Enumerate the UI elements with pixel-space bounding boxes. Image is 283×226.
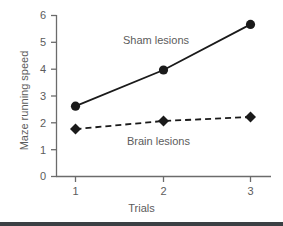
- y-tick-label-0: 0: [30, 171, 46, 182]
- x-axis-title: Trials: [0, 203, 283, 214]
- series-label-sham-lesions: Sham lesions: [123, 35, 189, 46]
- y-tick-label-4: 4: [30, 64, 46, 75]
- data-point-brain-trial-3: [245, 112, 256, 123]
- series-label-brain-lesions: Brain lesions: [127, 136, 190, 147]
- data-point-sham-trial-2: [159, 65, 168, 74]
- y-tick-label-5: 5: [30, 37, 46, 48]
- y-axis-title: Maze running speed: [19, 21, 30, 181]
- y-tick-label-1: 1: [30, 145, 46, 156]
- y-tick-label-3: 3: [30, 91, 46, 102]
- y-tick-label-6: 6: [30, 10, 46, 21]
- x-tick-label-1: 1: [68, 186, 84, 197]
- chart-figure: 6 5 4 3 2 1 0 1 2 3 Maze running speed T…: [0, 0, 283, 222]
- series-markers-brain-lesions: [70, 112, 256, 135]
- x-tick-label-2: 2: [156, 186, 172, 197]
- data-point-brain-trial-2: [158, 116, 169, 127]
- data-point-sham-trial-1: [71, 102, 80, 111]
- bottom-edge-bar: [0, 222, 283, 226]
- x-axis-ticks: [76, 177, 251, 183]
- x-tick-label-3: 3: [243, 186, 259, 197]
- y-tick-label-2: 2: [30, 118, 46, 129]
- data-point-sham-trial-3: [246, 20, 255, 29]
- y-axis-ticks: [51, 16, 57, 177]
- data-point-brain-trial-1: [70, 124, 81, 135]
